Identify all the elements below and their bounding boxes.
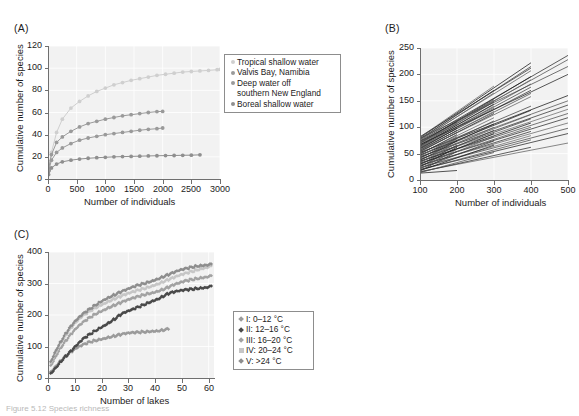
legend-label: II: 12–16 °C (246, 324, 290, 334)
legend-item[interactable]: II: 12–16 °C (237, 324, 309, 334)
y-tick-label: 60 (14, 107, 42, 117)
panel-b-plot-area (420, 48, 568, 180)
x-tick (163, 180, 164, 184)
y-tick-label: 0 (14, 173, 42, 183)
panel-c-legend: I: 0–12 °CII: 12–16 °CIII: 16–20 °CIV: 2… (233, 311, 314, 370)
y-tick (417, 154, 421, 155)
y-tick (417, 101, 421, 102)
x-tick (134, 180, 135, 184)
x-tick (102, 379, 103, 383)
panel-b-label: (B) (385, 22, 400, 34)
y-tick (45, 46, 49, 47)
legend-label-line2: southern New England (237, 88, 321, 98)
y-tick-label: 400 (14, 246, 42, 256)
y-tick-label: 100 (14, 341, 42, 351)
legend-item[interactable]: V: >24 °C (237, 356, 309, 366)
y-tick-label: 200 (14, 309, 42, 319)
circle-marker-icon (228, 67, 237, 77)
x-tick-label: 60 (189, 383, 229, 393)
x-tick (105, 180, 106, 184)
x-tick (75, 379, 76, 383)
legend-item[interactable]: Valvis Bay, Namibia (228, 67, 336, 77)
panel-b-xlabel: Number of individuals (455, 197, 546, 208)
square-marker-icon (237, 345, 246, 355)
x-tick (48, 180, 49, 184)
circle-marker-icon (228, 78, 237, 88)
y-tick-label: 0 (386, 174, 414, 184)
legend-label: IV: 20–24 °C (246, 345, 293, 355)
panel-c-xlabel: Number of lakes (100, 395, 169, 406)
panel-c-label: (C) (14, 228, 29, 240)
legend-item[interactable]: I: 0–12 °C (237, 314, 309, 324)
y-tick-label: 80 (14, 84, 42, 94)
y-tick-label: 100 (14, 62, 42, 72)
legend-item[interactable]: Deep water off (228, 78, 336, 88)
panel-b-svg (420, 48, 568, 180)
y-tick-label: 300 (14, 278, 42, 288)
y-tick (417, 74, 421, 75)
x-tick (457, 181, 458, 185)
circle-marker-icon (228, 99, 237, 109)
panel-a-svg (48, 46, 220, 179)
x-tick (77, 180, 78, 184)
x-tick (494, 181, 495, 185)
diamond-marker-icon (237, 324, 246, 334)
x-tick-label: 200 (437, 185, 477, 195)
y-tick-label: 20 (14, 151, 42, 161)
y-tick-label: 150 (386, 95, 414, 105)
y-tick-label: 40 (14, 129, 42, 139)
x-tick-label: 3000 (200, 184, 240, 194)
x-tick (128, 379, 129, 383)
y-tick (45, 113, 49, 114)
x-tick (191, 180, 192, 184)
y-tick (45, 284, 49, 285)
x-tick (420, 181, 421, 185)
y-tick (417, 127, 421, 128)
diamond-marker-icon (237, 314, 246, 324)
panel-c-svg (48, 252, 214, 378)
y-tick (45, 90, 49, 91)
y-axis-line (420, 48, 421, 181)
panel-a-xlabel: Number of individuals (84, 196, 175, 207)
y-tick (45, 315, 49, 316)
x-tick-label: 100 (400, 185, 440, 195)
panel-a-label: (A) (14, 22, 29, 34)
x-tick-label: 300 (474, 185, 514, 195)
y-tick (45, 252, 49, 253)
x-axis-line (48, 378, 215, 379)
x-tick-label: 500 (548, 185, 579, 195)
legend-item[interactable]: III: 16–20 °C (237, 335, 309, 345)
y-tick-label: 100 (386, 121, 414, 131)
legend-label: I: 0–12 °C (246, 314, 283, 324)
legend-label: Tropical shallow water (237, 57, 319, 67)
y-tick-label: 250 (386, 42, 414, 52)
y-tick (45, 157, 49, 158)
diamond-marker-icon (237, 356, 246, 366)
y-tick-label: 200 (386, 68, 414, 78)
x-tick (220, 180, 221, 184)
y-tick (45, 135, 49, 136)
legend-item[interactable]: Tropical shallow water (228, 57, 336, 67)
y-tick (45, 347, 49, 348)
figure-caption: Figure 5.12 Species richness (6, 404, 109, 413)
legend-item[interactable]: Boreal shallow water (228, 99, 336, 109)
y-tick-label: 50 (386, 148, 414, 158)
legend-item[interactable]: IV: 20–24 °C (237, 345, 309, 355)
x-tick (209, 379, 210, 383)
y-tick-label: 0 (14, 372, 42, 382)
legend-item-continuation: southern New England (228, 88, 336, 98)
y-tick (45, 68, 49, 69)
legend-label: III: 16–20 °C (246, 335, 292, 345)
legend-label: Deep water off (237, 78, 291, 88)
x-tick (531, 181, 532, 185)
y-tick (417, 48, 421, 49)
panel-a-plot-area (48, 46, 220, 179)
x-tick-label: 400 (511, 185, 551, 195)
circle-marker-icon (228, 57, 237, 67)
y-tick-label: 120 (14, 40, 42, 50)
panel-c-plot-area (48, 252, 214, 378)
x-tick (568, 181, 569, 185)
legend-label: Valvis Bay, Namibia (237, 67, 310, 77)
x-tick (182, 379, 183, 383)
diamond-marker-icon (237, 335, 246, 345)
